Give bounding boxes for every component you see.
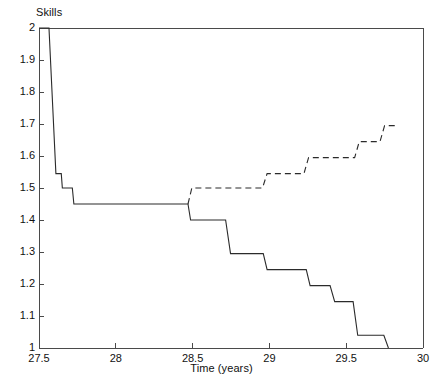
series-line-rising-skills xyxy=(188,126,395,204)
y-tick-label: 1.7 xyxy=(20,117,35,129)
y-tick-label: 1.5 xyxy=(20,181,35,193)
y-tick-label: 1.9 xyxy=(20,53,35,65)
chart-figure: Skills 11.11.21.31.41.51.61.71.81.92 27.… xyxy=(0,0,443,392)
y-tick-label: 1.2 xyxy=(20,277,35,289)
y-tick-label: 1.4 xyxy=(20,213,35,225)
plot-area xyxy=(0,0,443,392)
y-tick-label: 1.8 xyxy=(20,85,35,97)
y-tick-label: 2 xyxy=(29,21,35,33)
y-tick-label: 1.6 xyxy=(20,149,35,161)
y-tick-label: 1.3 xyxy=(20,245,35,257)
y-tick-label: 1.1 xyxy=(20,309,35,321)
series-layer xyxy=(39,28,395,348)
series-line-declining-skills xyxy=(39,28,388,348)
x-axis-title: Time (years) xyxy=(0,362,443,374)
